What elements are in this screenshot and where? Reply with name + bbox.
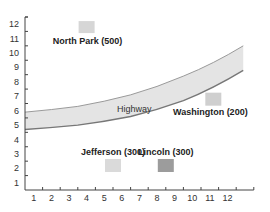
building-label: Lincoln (300): [138, 147, 194, 157]
x-tick-label: 12: [222, 193, 232, 203]
building-marker: [158, 159, 174, 172]
x-tick-label: 8: [154, 193, 159, 203]
y-tick-label: 1: [14, 178, 19, 188]
y-tick-label: 8: [14, 77, 19, 87]
y-tick-label: 12: [9, 19, 19, 29]
map-diagram: Highway 123456789101112123456789101112 N…: [0, 0, 270, 212]
x-tick-label: 2: [49, 193, 54, 203]
y-tick-label: 4: [14, 135, 19, 145]
x-tick-label: 9: [172, 193, 177, 203]
building-north-park: North Park (500): [53, 21, 123, 46]
y-tick-label: 7: [14, 91, 19, 101]
x-tick-label: 5: [102, 193, 107, 203]
highway-label: Highway: [117, 104, 152, 114]
y-tick-label: 5: [14, 120, 19, 130]
y-tick-label: 2: [14, 163, 19, 173]
building-marker: [105, 159, 121, 172]
building-marker: [79, 21, 95, 33]
y-tick-label: 10: [9, 48, 19, 58]
x-tick-label: 11: [205, 193, 214, 203]
building-label: Jefferson (300): [81, 147, 145, 157]
x-tick-label: 4: [84, 193, 89, 203]
y-tick-label: 9: [14, 62, 19, 72]
x-tick-label: 3: [66, 193, 71, 203]
y-tick-label: 6: [14, 106, 19, 116]
building-label: North Park (500): [53, 36, 123, 46]
x-tick-label: 7: [137, 193, 142, 203]
x-tick-label: 6: [119, 193, 124, 203]
x-tick-label: 1: [31, 193, 36, 203]
building-jefferson: Jefferson (300): [81, 147, 145, 172]
building-marker: [205, 93, 221, 106]
building-lincoln: Lincoln (300): [138, 147, 194, 172]
y-tick-label: 3: [14, 149, 19, 159]
building-label: Washington (200): [173, 107, 248, 117]
x-tick-label: 10: [187, 193, 197, 203]
y-tick-label: 11: [10, 34, 19, 44]
